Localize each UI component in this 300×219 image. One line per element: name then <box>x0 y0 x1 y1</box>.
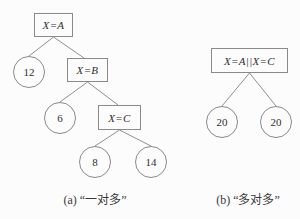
tree-a-leaf-6: 6 <box>44 102 76 134</box>
tree-a-node-c-label: X=C <box>108 112 130 124</box>
tree-a-node-b: X=B <box>67 58 108 82</box>
tree-a-node-b-label: X=B <box>77 64 99 76</box>
tree-a-root-label: X=A <box>43 19 65 31</box>
tree-a-leaf-14: 14 <box>135 146 167 178</box>
tree-a-node-c: X=C <box>98 105 141 130</box>
tree-diagram: X=A 12 X=B 6 X=C 8 14 (a) “一对多” X=A||X=C… <box>0 0 300 219</box>
tree-b-leaf-right: 20 <box>260 106 292 138</box>
tree-a-root-node: X=A <box>34 13 73 37</box>
tree-a-leaf-12: 12 <box>13 56 45 88</box>
tree-b-leaf-left-value: 20 <box>217 116 228 128</box>
tree-a-leaf-8-value: 8 <box>92 156 98 168</box>
tree-a-leaf-6-value: 6 <box>57 112 63 124</box>
tree-b-caption: (b) “多对多” <box>198 190 298 208</box>
tree-b-root-node: X=A||X=C <box>211 48 288 73</box>
tree-a-leaf-14-value: 14 <box>146 156 157 168</box>
tree-a-leaf-8: 8 <box>79 146 111 178</box>
tree-a-leaf-12-value: 12 <box>24 66 35 78</box>
tree-b-leaf-left: 20 <box>206 106 238 138</box>
tree-b-leaf-right-value: 20 <box>271 116 282 128</box>
tree-a-caption: (a) “一对多” <box>30 190 160 208</box>
tree-b-root-label: X=A||X=C <box>224 55 275 67</box>
